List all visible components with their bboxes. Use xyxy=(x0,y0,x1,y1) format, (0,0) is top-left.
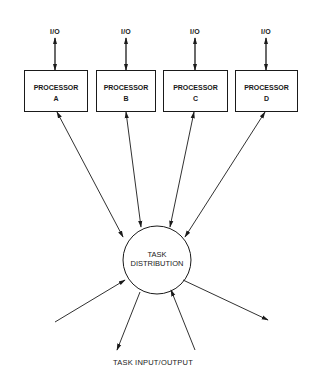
task-distribution-label: TASK DISTRIBUTION xyxy=(120,250,194,269)
arrow-b-hub xyxy=(126,112,141,227)
arrow-d-hub xyxy=(185,112,265,237)
task-distribution-line1: TASK xyxy=(120,250,194,259)
task-distribution-line2: DISTRIBUTION xyxy=(120,259,194,268)
processor-hub-arrows xyxy=(57,112,265,237)
arrow-a-hub xyxy=(57,112,123,237)
task-input-arrow-left xyxy=(55,280,125,322)
processor-d-id: D xyxy=(236,95,297,102)
processor-d-title: PROCESSOR xyxy=(236,84,297,91)
multiprocessor-diagram: I/O I/O I/O I/O PROCESSOR A PROCESSOR B … xyxy=(0,0,314,385)
arrow-c-hub xyxy=(170,112,194,227)
io-arrows xyxy=(55,38,266,70)
processor-b-id: B xyxy=(97,95,155,102)
processor-b-title: PROCESSOR xyxy=(97,84,155,91)
task-output-arrow-down xyxy=(117,292,140,350)
processor-c-box: PROCESSOR C xyxy=(163,70,228,112)
task-input-output-label: TASK INPUT/OUTPUT xyxy=(113,358,193,367)
io-label-d: I/O xyxy=(251,28,281,35)
processor-d-box: PROCESSOR D xyxy=(235,70,298,112)
processor-a-title: PROCESSOR xyxy=(25,84,87,91)
diagram-canvas xyxy=(0,0,314,385)
task-input-arrow-right xyxy=(171,290,195,350)
io-label-c: I/O xyxy=(180,28,210,35)
processor-a-id: A xyxy=(25,95,87,102)
processor-b-box: PROCESSOR B xyxy=(96,70,156,112)
io-label-a: I/O xyxy=(40,28,70,35)
processor-a-box: PROCESSOR A xyxy=(24,70,88,112)
task-output-arrow-right xyxy=(183,280,268,320)
processor-c-id: C xyxy=(164,95,227,102)
processor-c-title: PROCESSOR xyxy=(164,84,227,91)
io-label-b: I/O xyxy=(111,28,141,35)
